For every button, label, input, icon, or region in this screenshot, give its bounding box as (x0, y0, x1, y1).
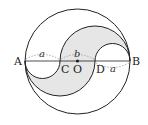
label-a-right: a (110, 63, 116, 74)
label-a-left: a (39, 48, 45, 59)
label-b: b (74, 48, 80, 59)
label-O: O (73, 63, 82, 76)
label-B: B (132, 55, 140, 68)
geometry-diagram: A B C O D a b a (0, 0, 148, 125)
label-D: D (96, 63, 105, 76)
label-C: C (61, 63, 69, 76)
label-A: A (13, 55, 23, 68)
